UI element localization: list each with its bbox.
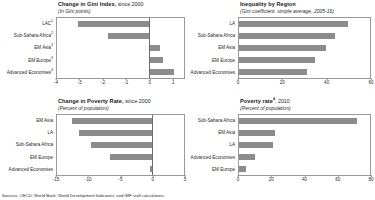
bar-row [57, 33, 184, 40]
bar [110, 154, 153, 160]
panel-title: Inequality by Region [240, 1, 373, 8]
plot-area-wrapper: EM AsiaLASub-Sahara AfricaEM EuropeAdvan… [0, 114, 187, 193]
tick-label: 60 [335, 177, 340, 182]
panel-title: Poverty rate4, 2010 [240, 98, 373, 105]
category-label: EM Europe3 [0, 58, 55, 63]
tick-label: -15 [53, 177, 60, 182]
category-label: Sub-Sahara Africa [0, 142, 55, 147]
panel-subtitle: (Percent of population) [58, 105, 185, 112]
zero-axis-line [152, 115, 153, 175]
panel-title-bold: Change in Poverty Rate, [58, 98, 124, 104]
category-footnote: 2 [51, 32, 53, 36]
panel-title-normal: , 2010 [275, 98, 290, 104]
panel-subtitle: (Gini coefficient, simple average, 2005-… [240, 8, 373, 15]
bar-rows [239, 18, 370, 78]
bar [239, 69, 307, 75]
tick-label: 1 [172, 80, 175, 85]
tick-label: 80 [368, 177, 373, 182]
category-footnote: 3 [51, 56, 53, 60]
category-label: EM Asia [188, 45, 237, 50]
panel-title: Change in Gini Index, since 2000 [58, 1, 185, 8]
category-labels: EM AsiaLASub-Sahara AfricaEM EuropeAdvan… [0, 114, 55, 176]
tick-label: 20 [269, 177, 274, 182]
tick-label: 40 [302, 177, 307, 182]
plot-area-wrapper: LAC1Sub-Sahara Africa2EM Asia3EM Europe3… [0, 17, 187, 96]
category-label: EM Asia [0, 118, 55, 123]
category-footnote: 3 [51, 44, 53, 48]
panel-subtitle: (Percent of population) [240, 105, 373, 112]
category-label: Advanced Economies [0, 167, 55, 172]
tick-label: 5 [184, 177, 187, 182]
panel-title-block: Poverty rate4, 2010 (Percent of populati… [240, 98, 373, 115]
bar-row [57, 118, 184, 125]
panel-title-bold: Inequality by Region [240, 1, 296, 7]
bar-row [57, 45, 184, 52]
bar [149, 45, 159, 51]
category-label: LA [0, 130, 55, 135]
category-label: EM Asia [188, 130, 237, 135]
x-axis-ticks: 020406080 [238, 177, 371, 185]
tick-label: 0 [151, 177, 154, 182]
bar-row [239, 21, 370, 28]
category-label: Sub-Sahara Africa [188, 118, 237, 123]
bar [149, 69, 173, 75]
category-label: Advanced Economies [188, 70, 237, 75]
bar-row [57, 21, 184, 28]
bar-row [57, 154, 184, 161]
panel-title-block: Change in Gini Index, since 2000 (In Gin… [58, 1, 185, 18]
panel-title-bold: Poverty rate [240, 98, 273, 104]
plot-frame [56, 114, 185, 176]
category-label: LA [188, 21, 237, 26]
tick-label: -10 [85, 177, 92, 182]
category-label: EM Europe [188, 167, 237, 172]
x-axis-ticks: -15-10-505 [56, 177, 185, 185]
category-label: Sub-Sahara Africa2 [0, 33, 55, 38]
tick-label: -4 [54, 80, 58, 85]
panel-subtitle: (In Gini points) [58, 8, 185, 15]
tick-label: 60 [368, 80, 373, 85]
x-axis-ticks: -4-3-2-101 [56, 80, 185, 88]
four-panel-chart-figure: Change in Gini Index, since 2000 (In Gin… [0, 0, 375, 200]
category-footnote: 4 [51, 69, 53, 73]
panel-gini-change: Change in Gini Index, since 2000 (In Gin… [0, 0, 187, 96]
bar-row [57, 57, 184, 64]
bar [239, 166, 246, 172]
category-label: LAC1 [0, 21, 55, 26]
bar [149, 57, 163, 63]
bar [91, 142, 153, 148]
bar-row [239, 57, 370, 64]
zero-axis-line [149, 18, 150, 78]
bar [239, 142, 273, 148]
bar-rows [239, 115, 370, 175]
panel-poverty-rate: Poverty rate4, 2010 (Percent of populati… [188, 97, 375, 193]
plot-frame [238, 114, 371, 176]
bar [78, 21, 150, 27]
category-label: Advanced Economies [188, 155, 237, 160]
bar-row [57, 142, 184, 149]
plot-frame [238, 17, 371, 79]
tick-label: -1 [124, 80, 128, 85]
plot-area-wrapper: LASub-Sahara AfricaEM AsiaEM EuropeAdvan… [188, 17, 375, 96]
panel-title-bold: Change in Gini Index, [58, 1, 116, 7]
bar-row [239, 118, 370, 125]
tick-label: 0 [149, 80, 152, 85]
tick-label: -2 [101, 80, 105, 85]
bar-row [239, 69, 370, 76]
bar-rows [57, 115, 184, 175]
panel-title-normal: since 2000 [116, 1, 143, 7]
bar [108, 33, 150, 39]
tick-label: 20 [280, 80, 285, 85]
category-labels: LAC1Sub-Sahara Africa2EM Asia3EM Europe3… [0, 17, 55, 79]
bar-row [239, 142, 370, 149]
panel-title-block: Inequality by Region (Gini coefficient, … [240, 1, 373, 18]
bar [239, 57, 315, 63]
tick-label: -3 [77, 80, 81, 85]
bar [239, 154, 255, 160]
bar [239, 45, 326, 51]
panel-inequality-by-region: Inequality by Region (Gini coefficient, … [188, 0, 375, 96]
bar [239, 118, 357, 124]
bar-row [239, 33, 370, 40]
panel-title-normal: since 2000 [124, 98, 151, 104]
bar [239, 130, 275, 136]
panel-title: Change in Poverty Rate, since 2000 [58, 98, 185, 105]
